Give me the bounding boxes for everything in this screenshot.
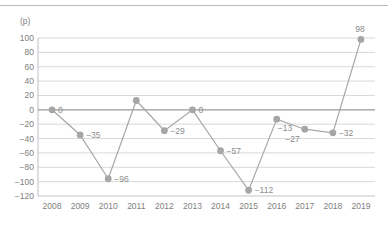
- gridlines: [38, 38, 375, 196]
- data-point-label: −32: [339, 129, 353, 138]
- data-point-marker: [358, 36, 365, 43]
- data-point-label: −112: [255, 186, 274, 195]
- x-tick-label: 2014: [211, 202, 230, 211]
- data-point-label: −96: [114, 175, 128, 184]
- data-point-marker: [105, 175, 112, 182]
- data-point-marker: [161, 127, 168, 134]
- x-tick-label: 2008: [43, 202, 62, 211]
- x-tick-label: 2010: [99, 202, 118, 211]
- data-point-label: −27: [285, 135, 299, 144]
- x-tick-label: 2017: [295, 202, 314, 211]
- x-tick-label: 2018: [323, 202, 342, 211]
- x-tick-label: 2016: [267, 202, 286, 211]
- x-tick-label: 2011: [127, 202, 145, 211]
- data-point-label: −29: [170, 127, 184, 136]
- data-point-label: 0: [58, 106, 63, 115]
- data-point-label: 0: [198, 106, 203, 115]
- data-point-marker: [189, 106, 196, 113]
- x-tick-label: 2009: [71, 202, 90, 211]
- data-point-marker: [245, 187, 252, 194]
- x-tick-label: 2012: [155, 202, 174, 211]
- data-point-label: −57: [227, 147, 241, 156]
- data-point-marker: [217, 147, 224, 154]
- data-point-label: −13: [278, 124, 292, 133]
- x-tick-label: 2015: [239, 202, 258, 211]
- data-point-marker: [301, 126, 308, 133]
- data-point-marker: [49, 106, 56, 113]
- data-point-marker: [133, 97, 140, 104]
- data-point-marker: [329, 129, 336, 136]
- x-tick-label: 2019: [351, 202, 370, 211]
- line-chart: (p) 100806040200−20−40−60−80−100−120 200…: [0, 0, 388, 226]
- data-point-label: 98: [355, 25, 364, 34]
- axis-lines: [38, 38, 375, 196]
- x-tick-label: 2013: [183, 202, 202, 211]
- data-point-label: −35: [86, 131, 100, 140]
- data-point-marker: [273, 116, 280, 123]
- data-point-marker: [77, 132, 84, 139]
- series-markers: [49, 36, 365, 194]
